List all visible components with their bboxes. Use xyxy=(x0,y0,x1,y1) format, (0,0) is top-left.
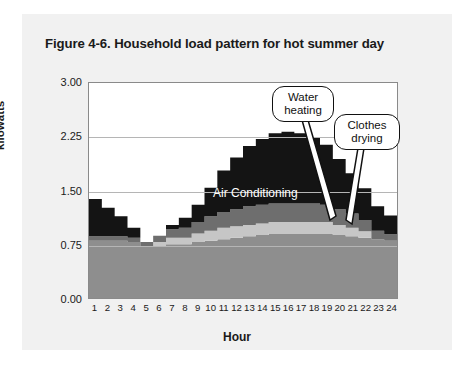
y-tick-label: 0.00 xyxy=(61,293,82,305)
y-tick-label: 1.50 xyxy=(61,185,82,197)
y-tick-label: 0.75 xyxy=(61,239,82,251)
callout-water-heating-line1: Water xyxy=(280,91,326,104)
x-tick-label: 9 xyxy=(195,302,200,313)
x-axis-labels: 123456789101112131415161718192021222324 xyxy=(88,302,398,318)
figure-page: Figure 4-6. Household load pattern for h… xyxy=(0,0,474,380)
x-axis-title: Hour xyxy=(0,330,474,344)
y-tick-label: 2.25 xyxy=(61,130,82,142)
x-tick-label: 4 xyxy=(131,302,136,313)
x-tick-label: 20 xyxy=(335,302,346,313)
annotation-air-conditioning: Air Conditioning xyxy=(213,186,298,200)
gridline xyxy=(89,246,397,247)
x-tick-label: 24 xyxy=(386,302,397,313)
callout-water-heating[interactable]: Water heating xyxy=(272,86,334,122)
callout-water-heating-line2: heating xyxy=(280,104,326,117)
x-tick-label: 22 xyxy=(360,302,371,313)
x-tick-label: 2 xyxy=(105,302,110,313)
y-axis-labels: 0.000.751.502.253.00 xyxy=(36,82,82,299)
x-tick-label: 21 xyxy=(347,302,358,313)
x-tick-label: 15 xyxy=(270,302,281,313)
x-tick-label: 12 xyxy=(231,302,242,313)
x-tick-label: 1 xyxy=(92,302,97,313)
x-tick-label: 18 xyxy=(309,302,320,313)
x-tick-label: 11 xyxy=(219,302,229,313)
x-tick-label: 14 xyxy=(257,302,268,313)
x-tick-label: 6 xyxy=(156,302,161,313)
callout-clothes-drying-line2: drying xyxy=(342,132,392,145)
callout-clothes-drying-line1: Clothes xyxy=(342,119,392,132)
y-tick-label: 3.00 xyxy=(61,76,82,88)
callout-clothes-drying[interactable]: Clothes drying xyxy=(334,114,400,150)
x-tick-label: 19 xyxy=(322,302,333,313)
y-axis-title: kilowatts xyxy=(0,101,6,150)
x-tick-label: 10 xyxy=(205,302,216,313)
x-tick-label: 23 xyxy=(373,302,384,313)
x-tick-label: 13 xyxy=(244,302,255,313)
area-series-base-load xyxy=(89,234,397,299)
x-tick-label: 16 xyxy=(283,302,294,313)
figure-title: Figure 4-6. Household load pattern for h… xyxy=(45,36,384,51)
x-tick-label: 5 xyxy=(143,302,148,313)
x-tick-label: 3 xyxy=(118,302,123,313)
x-tick-label: 7 xyxy=(169,302,174,313)
x-tick-label: 8 xyxy=(182,302,187,313)
x-tick-label: 17 xyxy=(296,302,307,313)
